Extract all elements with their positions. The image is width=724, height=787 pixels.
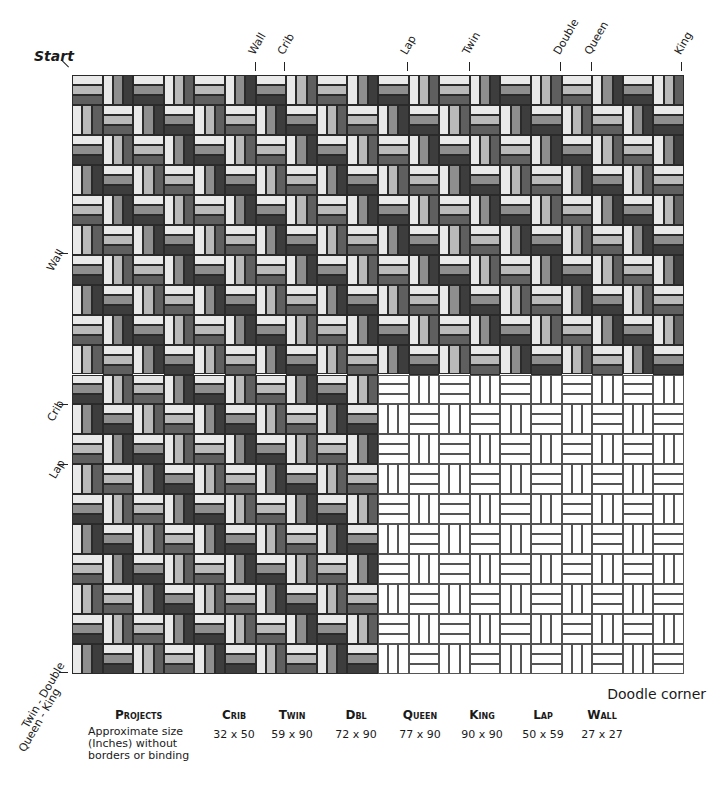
rail-fence-block [225,524,256,554]
strip [347,255,357,285]
strip [276,285,286,315]
rail-fence-block [378,105,409,135]
strip [592,494,602,524]
strip [439,205,470,215]
strip [368,135,378,165]
strip [103,484,134,494]
strip [225,584,256,594]
doodle-block [470,494,501,524]
rail-fence-block [225,494,256,524]
strip [225,195,235,225]
strip [296,434,306,464]
strip [123,614,133,644]
rail-fence-block [72,584,103,614]
strip [358,375,368,405]
strip [317,225,327,255]
rail-fence-block [103,614,134,644]
strip [225,414,256,424]
strip [470,584,501,594]
rail-fence-block [286,375,317,405]
strip [541,434,551,464]
strip [653,614,663,644]
strip [123,315,133,345]
strip [347,245,378,255]
strip [470,484,501,494]
strip [184,315,194,345]
strip [347,235,378,245]
strip [398,524,408,554]
strip [92,584,102,614]
strip [602,375,612,405]
strip [490,135,500,165]
strip [439,564,470,574]
strip [480,554,490,584]
rail-fence-block [531,255,562,285]
strip [511,404,521,434]
strip [347,295,378,305]
rail-fence-block [133,644,164,674]
strip [164,464,195,474]
strip [164,584,195,594]
strip [551,375,561,405]
strip [194,384,225,394]
strip [103,554,113,584]
strip [623,205,654,215]
strip [113,614,123,644]
strip [164,255,174,285]
strip [72,614,103,624]
strip [378,215,409,225]
strip [72,434,103,444]
strip [623,384,654,394]
strip [439,165,449,195]
strip [133,75,164,85]
strip [103,245,134,255]
strip [592,375,602,405]
strip [562,215,593,225]
strip [480,614,490,644]
strip [194,345,204,375]
strip [480,195,490,225]
strip [164,305,195,315]
strip [653,414,684,424]
strip [256,504,287,514]
strip [572,464,582,494]
strip [419,135,429,165]
strip [358,434,368,464]
doodle-block [653,584,684,614]
rail-fence-block [103,494,134,524]
strip [572,524,582,554]
strip [194,564,225,574]
doodle-block [500,494,531,524]
strip [562,75,593,85]
strip [653,484,684,494]
strip [633,345,643,375]
strip [276,225,286,255]
strip [92,644,102,674]
strip [500,644,510,674]
col-lap: Lap 50 x 59 [513,708,573,741]
strip [164,345,195,355]
strip [103,424,134,434]
strip [623,504,654,514]
strip [347,365,378,375]
rail-fence-block [164,285,195,315]
quilt-grid [72,75,684,674]
marker-tick [255,62,256,71]
strip [470,494,480,524]
strip [378,574,409,584]
strip [439,135,470,145]
doodle-block [562,614,593,644]
rail-fence-block [500,315,531,345]
strip [347,165,378,175]
strip [429,75,439,105]
top-marker-label: Crib [275,31,297,57]
strip [317,554,348,564]
strip [215,644,225,674]
strip [133,135,164,145]
strip [613,554,623,584]
strip [562,145,593,155]
strip [582,524,592,554]
strip [143,345,153,375]
rail-fence-block [378,345,409,375]
rail-fence-block [256,225,287,255]
